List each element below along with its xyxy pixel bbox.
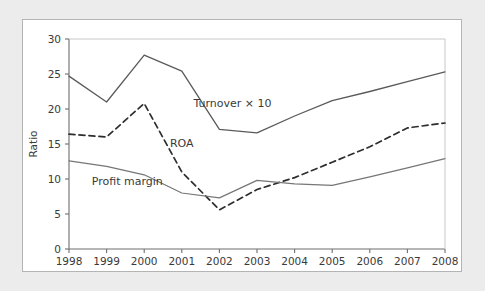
chart-panel: 051015202530Ratio19981999200020012002200…: [22, 19, 462, 272]
y-tick-label: 0: [54, 243, 61, 255]
x-tick-label: 2004: [281, 255, 308, 267]
x-tick-label: 2005: [319, 255, 346, 267]
y-axis-title: Ratio: [27, 131, 39, 158]
figure-root: 051015202530Ratio19981999200020012002200…: [0, 0, 485, 291]
y-tick-label: 5: [54, 208, 61, 220]
y-tick-label: 15: [48, 138, 61, 150]
series-label-turnover-10: Turnover × 10: [193, 97, 272, 110]
series-line-roa: [69, 103, 445, 209]
x-tick-label: 2002: [206, 255, 233, 267]
x-tick-label: 2001: [168, 255, 195, 267]
x-tick-label: 2000: [131, 255, 158, 267]
y-tick-label: 30: [48, 33, 61, 45]
x-tick-label: 1998: [56, 255, 83, 267]
x-tick-label: 2003: [244, 255, 271, 267]
line-chart: 051015202530Ratio19981999200020012002200…: [23, 20, 461, 271]
x-tick-label: 2007: [394, 255, 421, 267]
series-label-profit-margin: Profit margin: [92, 175, 163, 188]
x-tick-label: 2008: [432, 255, 459, 267]
y-tick-label: 25: [48, 68, 61, 80]
y-tick-label: 20: [48, 103, 61, 115]
y-tick-label: 10: [48, 173, 61, 185]
x-tick-label: 1999: [93, 255, 120, 267]
x-tick-label: 2006: [356, 255, 383, 267]
series-label-roa: ROA: [170, 137, 194, 150]
